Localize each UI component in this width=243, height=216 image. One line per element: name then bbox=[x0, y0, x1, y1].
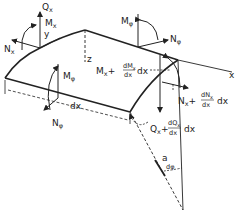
svg-text:Nx+: Nx+ bbox=[178, 96, 196, 108]
svg-text:Qx+: Qx+ bbox=[150, 124, 169, 136]
svg-text:dMx: dMx bbox=[123, 62, 136, 71]
left-face-vectors bbox=[12, 12, 60, 50]
svg-text:Qx: Qx bbox=[42, 2, 53, 14]
svg-text:Nx: Nx bbox=[4, 44, 15, 56]
shell-element-outline bbox=[5, 30, 232, 112]
svg-text:dx: dx bbox=[217, 96, 229, 106]
svg-text:Mφ: Mφ bbox=[121, 16, 133, 28]
svg-text:Mφ: Mφ bbox=[63, 71, 75, 83]
y-axis-line bbox=[40, 38, 60, 48]
radius-label: a bbox=[162, 153, 168, 163]
svg-text:dx: dx bbox=[137, 66, 149, 76]
svg-text:Mx+: Mx+ bbox=[96, 66, 115, 78]
nphi-front-arrow-icon bbox=[44, 98, 58, 110]
svg-text:Nφ: Nφ bbox=[170, 34, 181, 46]
vertical-radius-line bbox=[178, 60, 183, 210]
svg-text:dx: dx bbox=[124, 71, 132, 79]
svg-text:dQx: dQx bbox=[168, 119, 180, 128]
shell-element-diagram: Qx Mx y Nx z Mφ Nφ x Mφ Nφ dx Mx+ dMx dx… bbox=[0, 0, 243, 216]
back-face-vectors bbox=[138, 14, 168, 47]
svg-text:dx: dx bbox=[169, 129, 177, 137]
nx-arrow-icon bbox=[12, 40, 40, 48]
z-axis-label: z bbox=[87, 54, 92, 64]
svg-text:dx: dx bbox=[202, 101, 210, 109]
svg-text:dx: dx bbox=[184, 124, 196, 134]
mphi-top-moment-icon bbox=[140, 20, 158, 40]
y-axis-label: y bbox=[44, 29, 50, 39]
nx-plus-arrow-icon bbox=[162, 82, 188, 88]
qx-plus-leader bbox=[130, 114, 148, 125]
dx-label: dx bbox=[70, 101, 82, 111]
nphi-top-arrow-icon bbox=[138, 40, 168, 47]
x-axis-label: x bbox=[229, 70, 235, 80]
svg-text:dNx: dNx bbox=[201, 91, 213, 100]
svg-text:Nφ: Nφ bbox=[52, 118, 63, 130]
front-face-vectors bbox=[44, 64, 58, 110]
mphi-front-moment-icon bbox=[48, 66, 58, 110]
dphi-label: dφ bbox=[166, 163, 174, 171]
